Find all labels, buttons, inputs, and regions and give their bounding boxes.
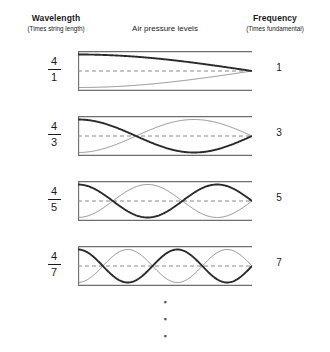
fraction-bar: [48, 69, 61, 70]
wavelength-header: Wavelength (Times string length): [2, 13, 110, 33]
frequency-header: Frequency (Times fundamental): [222, 13, 328, 33]
harmonic-row: 477: [0, 240, 330, 302]
wave-tube: [78, 246, 252, 286]
frequency-header-subtitle: (Times fundamental): [222, 24, 328, 33]
continuation-ellipsis: ▪ ▪ ▪: [0, 294, 330, 345]
wavelength-fraction: 43: [34, 120, 74, 148]
wavelength-denominator: 7: [34, 266, 74, 278]
harmonic-row: 433: [0, 110, 330, 172]
wavelength-fraction: 41: [34, 55, 74, 83]
frequency-value: 7: [262, 257, 296, 268]
frequency-value: 1: [262, 62, 296, 73]
harmonic-row: 455: [0, 175, 330, 237]
harmonic-row: 411: [0, 45, 330, 107]
frequency-header-title: Frequency: [222, 13, 328, 24]
ellipsis-dot-3: ▪: [0, 328, 330, 345]
fraction-bar: [48, 264, 61, 265]
fraction-bar: [48, 199, 61, 200]
wavelength-fraction: 47: [34, 250, 74, 278]
pressure-header-title: Air pressure levels: [110, 24, 220, 33]
wavelength-numerator: 4: [34, 185, 74, 197]
wavelength-denominator: 3: [34, 136, 74, 148]
frequency-value: 3: [262, 127, 296, 138]
pressure-wave-thin: [78, 71, 252, 88]
wave-tube: [78, 116, 252, 156]
wavelength-header-subtitle: (Times string length): [2, 24, 110, 33]
pressure-wave-bold: [78, 55, 252, 72]
wave-tube: [78, 181, 252, 221]
wavelength-fraction: 45: [34, 185, 74, 213]
ellipsis-dot-2: ▪: [0, 311, 330, 328]
pressure-header: Air pressure levels: [110, 24, 220, 33]
frequency-value: 5: [262, 192, 296, 203]
wavelength-numerator: 4: [34, 250, 74, 262]
wavelength-numerator: 4: [34, 120, 74, 132]
ellipsis-dot-1: ▪: [0, 294, 330, 311]
wavelength-header-title: Wavelength: [2, 13, 110, 24]
fraction-bar: [48, 134, 61, 135]
wavelength-denominator: 1: [34, 71, 74, 83]
wavelength-numerator: 4: [34, 55, 74, 67]
wave-tube: [78, 51, 252, 91]
wavelength-denominator: 5: [34, 201, 74, 213]
